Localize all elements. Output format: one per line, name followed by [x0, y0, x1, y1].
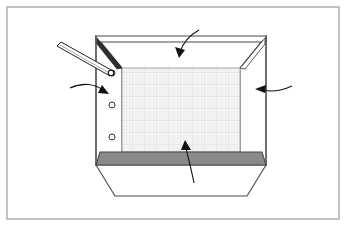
top-rail: [96, 36, 266, 42]
figure-root: Collapsible container assembly — perspec…: [0, 0, 346, 226]
technical-drawing-svg: Collapsible container assembly — perspec…: [0, 0, 346, 226]
hinge-pin-tip: [108, 70, 113, 75]
bottom-edge-band: [96, 152, 266, 165]
mesh-back-panel: [122, 68, 240, 152]
bottom-apron: [96, 165, 266, 196]
hinge-hole-3: [109, 134, 115, 140]
hinge-hole-2: [109, 102, 115, 108]
